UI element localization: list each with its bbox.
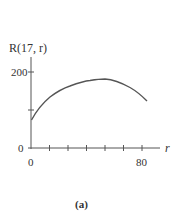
x-tick-label-80: 80 [136,156,148,168]
data-curve [32,79,148,120]
figure-caption: (a) [75,198,88,211]
y-tick-label-200: 200 [11,66,28,78]
x-tick-label-0: 0 [28,156,34,168]
y-tick-label-0: 0 [18,142,24,154]
x-axis-label: r [165,141,170,155]
chart: R(17, r) 200 0 0 80 r (a) [0,0,183,224]
y-axis-label: R(17, r) [9,41,47,55]
